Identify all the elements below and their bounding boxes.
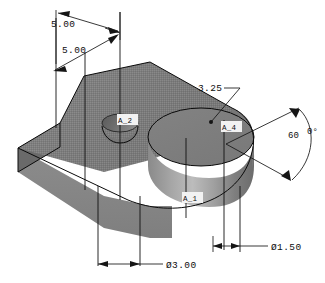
- cad-drawing-canvas: 5.00 5.00 3.25 60 0°: [0, 0, 325, 283]
- axis-label-a2-group: A_2: [117, 114, 138, 125]
- dim-label-325: 3.25: [198, 83, 222, 94]
- arrow-angle-lower: [281, 170, 291, 181]
- axis-label-a1: A_1: [183, 195, 197, 203]
- dimension-bolt-circle: Ø3.00: [98, 260, 197, 271]
- arrow-top-left-start: [58, 11, 70, 17]
- axis-label-a4: A_4: [222, 124, 236, 132]
- angle-arc: [292, 110, 311, 180]
- cad-drawing-svg: 5.00 5.00 3.25 60 0°: [0, 0, 325, 283]
- axis-label-a2: A_2: [118, 117, 132, 125]
- arrow-top-left-end: [108, 27, 120, 34]
- dim-label-bolt-circle: Ø3.00: [166, 260, 197, 271]
- leader-dot-325: [209, 120, 213, 124]
- arrow-hole-right: [231, 243, 240, 249]
- dim-label-angle-right: 0°: [307, 127, 318, 137]
- dim-label-top-inner: 5.00: [62, 45, 86, 56]
- dim-label-hole-diameter: Ø1.50: [271, 242, 302, 253]
- dim-label-top-left: 5.00: [51, 19, 75, 30]
- arrow-top-inner-end: [108, 34, 119, 44]
- arrow-bolt-left: [98, 261, 108, 267]
- arrow-bolt-right: [130, 261, 140, 267]
- axis-label-a4-group: A_4: [221, 121, 242, 132]
- arrow-hole-left: [213, 243, 222, 249]
- dimension-hole-diameter: Ø1.50: [213, 236, 302, 253]
- axis-label-a1-group: A_1: [182, 192, 203, 203]
- arrow-angle-upper: [289, 108, 300, 118]
- dim-label-angle-left: 60: [288, 131, 299, 141]
